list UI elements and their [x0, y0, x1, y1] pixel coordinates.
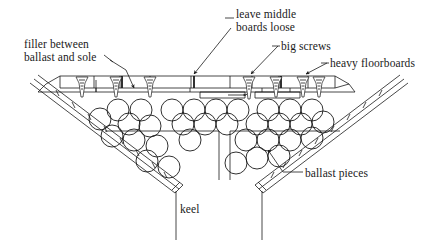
- ballast-piece: [268, 145, 290, 167]
- ballast-piece: [205, 99, 227, 121]
- ballast-piece: [118, 113, 140, 135]
- ballast-piece: [225, 152, 247, 174]
- label-leave-line1: leave middle: [236, 8, 296, 21]
- label-leave-line2: boards loose: [236, 21, 296, 34]
- diagram-page: filler between ballast and sole leave mi…: [0, 0, 443, 245]
- ballast-piece: [183, 99, 205, 121]
- ballast-piece: [301, 99, 323, 121]
- ballast-piece: [268, 113, 290, 135]
- label-filler-between-ballast-and-sole: filler between ballast and sole: [24, 38, 97, 63]
- leader-big-screws: [251, 46, 278, 74]
- ballast-piece: [246, 113, 268, 135]
- ballast-pieces-group: [89, 99, 334, 178]
- ballast-piece: [279, 99, 301, 121]
- ballast-piece: [139, 115, 161, 137]
- leader-heavy-floorboards: [306, 63, 327, 74]
- ballast-piece: [227, 99, 249, 121]
- label-filler-line1: filler between: [24, 38, 97, 51]
- ballast-piece: [290, 113, 312, 135]
- ballast-piece: [257, 99, 279, 121]
- ballast-piece: [301, 127, 323, 149]
- leader-leave-middle: [194, 28, 231, 74]
- label-big-screws: big screws: [281, 40, 331, 53]
- ballast-piece: [279, 129, 301, 151]
- ballast-piece: [89, 108, 111, 130]
- ballast-piece: [101, 125, 123, 147]
- label-ballast-pieces: ballast pieces: [305, 167, 368, 180]
- ballast-piece: [136, 150, 158, 172]
- ballast-piece: [161, 99, 183, 121]
- ballast-piece: [312, 111, 334, 133]
- label-keel: keel: [180, 203, 200, 216]
- hull-planking-left: [30, 75, 183, 193]
- screw: [313, 77, 325, 97]
- screw: [297, 77, 309, 97]
- label-filler-line2: ballast and sole: [24, 51, 97, 64]
- hull-cross-section-diagram: [0, 0, 443, 245]
- deck-hull-joint: [335, 84, 349, 88]
- ballast-piece: [130, 99, 152, 121]
- ballast-piece: [146, 135, 168, 157]
- ballast-piece: [246, 147, 268, 169]
- screw: [76, 77, 88, 97]
- label-leave-middle-boards-loose: leave middle boards loose: [236, 8, 296, 33]
- label-heavy-floorboards: heavy floorboards: [330, 57, 415, 70]
- screw: [144, 77, 156, 97]
- keel: [176, 191, 262, 240]
- ballast-piece: [107, 99, 129, 121]
